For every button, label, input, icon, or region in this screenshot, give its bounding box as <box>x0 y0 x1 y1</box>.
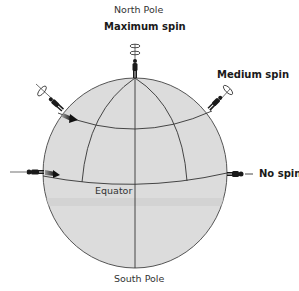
medium-spin-label: Medium spin <box>217 69 289 80</box>
south-pole-label: South Pole <box>114 273 164 284</box>
globe-diagram <box>0 0 299 291</box>
equator-label: Equator <box>95 185 132 196</box>
north-pole-figure-icon <box>130 44 140 78</box>
maximum-spin-label: Maximum spin <box>104 21 186 32</box>
shade-band <box>40 198 240 206</box>
right-equator-figure-icon <box>227 171 253 177</box>
no-spin-label: No spin <box>259 168 299 179</box>
north-pole-label: North Pole <box>114 4 163 15</box>
upper-right-figure-icon <box>207 84 234 111</box>
